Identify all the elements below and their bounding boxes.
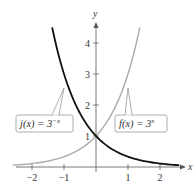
callouts: j(x) = 3−xf(x) = 3x (16, 88, 167, 132)
callout-j: j(x) = 3−x (16, 88, 73, 132)
x-tick-label: 2 (158, 172, 163, 183)
x-axis-label: x (187, 161, 193, 172)
x-tick-label: −2 (27, 172, 38, 183)
curve-f (13, 27, 140, 165)
curve-j (52, 27, 179, 165)
callout-pointer (125, 88, 132, 115)
axes: x y (16, 8, 193, 172)
exponential-functions-chart: x y −2−1121234 j(x) = 3−xf(x) = 3x (0, 0, 194, 192)
callout-f: f(x) = 3x (115, 88, 167, 132)
y-axis-label: y (92, 8, 98, 19)
callout-label: f(x) = 3x (119, 117, 155, 130)
y-tick-label: 3 (85, 69, 90, 80)
x-tick-label: −1 (59, 172, 70, 183)
y-tick-label: 4 (85, 38, 90, 49)
x-axis-arrow (180, 165, 186, 170)
y-tick-label: 1 (85, 131, 90, 142)
callout-pointer (52, 88, 64, 115)
y-axis-arrow (94, 22, 99, 28)
y-tick-label: 2 (85, 100, 90, 111)
x-tick-label: 1 (126, 172, 131, 183)
